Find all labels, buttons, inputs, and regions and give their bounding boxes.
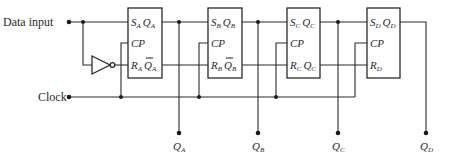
svg-text:CP: CP bbox=[211, 37, 225, 49]
qd-output-label: QD bbox=[420, 140, 433, 154]
data-input-label: Data input bbox=[3, 15, 54, 29]
qa-output-label: QA bbox=[173, 140, 186, 154]
inverter-gate-icon bbox=[92, 56, 115, 74]
flip-flop-b: SBQB CP RBQB bbox=[208, 8, 242, 78]
data-to-inverter-wire bbox=[83, 22, 92, 65]
qd-output-terminal bbox=[424, 131, 429, 136]
clock-to-cp-a bbox=[121, 43, 128, 97]
qd-output-wire bbox=[400, 22, 426, 133]
svg-text:CP: CP bbox=[370, 37, 384, 49]
flip-flop-a: SAQA CP RAQA bbox=[128, 8, 162, 78]
qc-output-label: QC bbox=[332, 140, 345, 154]
svg-text:CP: CP bbox=[290, 37, 304, 49]
clock-to-cp-b bbox=[199, 43, 208, 97]
qb-output-label: QB bbox=[252, 140, 265, 154]
svg-text:CP: CP bbox=[131, 37, 145, 49]
clock-label: Clock bbox=[38, 90, 67, 104]
clock-to-cp-c bbox=[276, 43, 287, 97]
shift-register-diagram: Data input Clock SAQA CP RAQA SBQB CP RB… bbox=[0, 0, 459, 157]
flip-flop-d: SDQD CP RD bbox=[367, 8, 400, 78]
clock-to-cp-d bbox=[355, 43, 367, 97]
flip-flop-c: SCQC CP RCQC bbox=[287, 8, 320, 78]
qc-output-terminal bbox=[336, 131, 341, 136]
qb-output-terminal bbox=[256, 131, 261, 136]
qa-output-terminal bbox=[177, 131, 182, 136]
